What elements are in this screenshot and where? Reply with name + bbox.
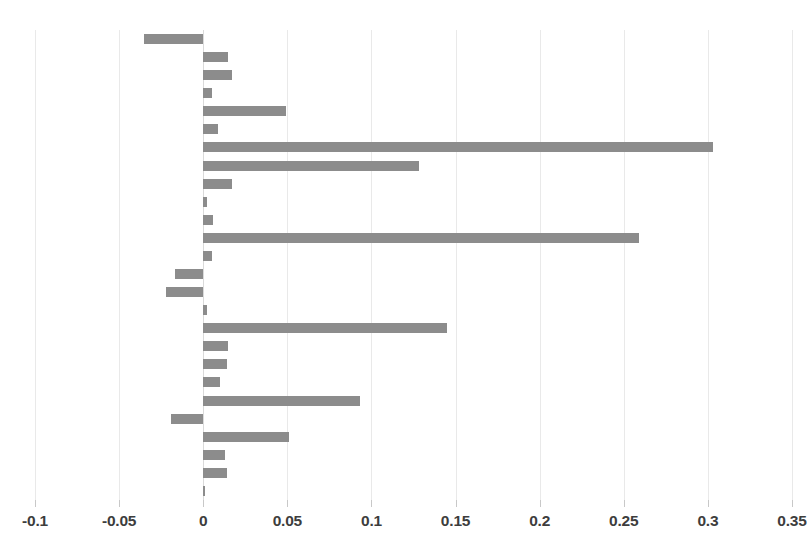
bar-row	[35, 428, 792, 446]
bar	[203, 323, 447, 333]
bar	[203, 377, 220, 387]
x-axis-tick-label: 0.35	[777, 512, 806, 530]
bar	[203, 197, 206, 207]
bar	[203, 70, 232, 80]
bar	[175, 269, 204, 279]
x-axis-tick-label: -0.1	[22, 512, 48, 530]
bar	[203, 215, 213, 225]
x-axis-tick-label: 0.1	[361, 512, 382, 530]
bar	[203, 305, 206, 315]
x-axis-tick-label: 0.05	[273, 512, 302, 530]
x-axis-tick-label: 0	[199, 512, 207, 530]
bar-chart: -0.1-0.0500.050.10.150.20.250.30.35	[0, 0, 807, 558]
bar	[203, 233, 639, 243]
bar-row	[35, 319, 792, 337]
bar-row	[35, 30, 792, 48]
bar-row	[35, 84, 792, 102]
bar-row	[35, 157, 792, 175]
bar	[203, 106, 285, 116]
bar-row	[35, 229, 792, 247]
bar-row	[35, 373, 792, 391]
bar	[203, 179, 232, 189]
bar	[203, 161, 418, 171]
plot-area	[35, 30, 792, 500]
bar-row	[35, 102, 792, 120]
bar	[203, 251, 211, 261]
bar	[203, 341, 228, 351]
bar-row	[35, 446, 792, 464]
x-axis-tick-mark	[792, 500, 793, 507]
bar	[203, 359, 227, 369]
bar-row	[35, 211, 792, 229]
bar	[203, 88, 211, 98]
bar	[203, 52, 228, 62]
bar	[203, 486, 205, 496]
x-axis: -0.1-0.0500.050.10.150.20.250.30.35	[35, 500, 792, 558]
bar-row	[35, 482, 792, 500]
bar-row	[35, 265, 792, 283]
bar	[171, 414, 203, 424]
bar-row	[35, 283, 792, 301]
bar	[203, 142, 713, 152]
bar	[144, 34, 203, 44]
bar	[166, 287, 203, 297]
bar-row	[35, 120, 792, 138]
x-axis-tick-mark	[624, 500, 625, 507]
x-axis-tick-mark	[287, 500, 288, 507]
bar-row	[35, 301, 792, 319]
bar-row	[35, 392, 792, 410]
bar-row	[35, 464, 792, 482]
x-axis-tick-label: 0.3	[697, 512, 718, 530]
x-axis-tick-mark	[35, 500, 36, 507]
x-axis-tick-label: 0.15	[441, 512, 470, 530]
bar-row	[35, 410, 792, 428]
x-axis-tick-mark	[540, 500, 541, 507]
bar	[203, 450, 225, 460]
x-axis-tick-label: 0.2	[529, 512, 550, 530]
bar	[203, 396, 359, 406]
x-axis-tick-mark	[371, 500, 372, 507]
x-axis-tick-label: 0.25	[609, 512, 638, 530]
bar-row	[35, 247, 792, 265]
bar-row	[35, 66, 792, 84]
bar-row	[35, 48, 792, 66]
bar	[203, 468, 227, 478]
bar-row	[35, 138, 792, 156]
bar	[203, 124, 218, 134]
bar-row	[35, 355, 792, 373]
bar	[203, 432, 289, 442]
x-axis-tick-mark	[119, 500, 120, 507]
bars-series	[35, 30, 792, 500]
gridline	[792, 30, 793, 500]
bar-row	[35, 337, 792, 355]
bar-row	[35, 193, 792, 211]
x-axis-tick-mark	[203, 500, 204, 507]
x-axis-tick-mark	[456, 500, 457, 507]
bar-row	[35, 175, 792, 193]
x-axis-tick-mark	[708, 500, 709, 507]
x-axis-tick-label: -0.05	[102, 512, 136, 530]
